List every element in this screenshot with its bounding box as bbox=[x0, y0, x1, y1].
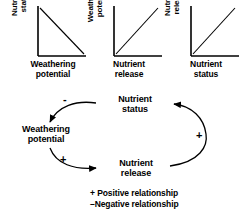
node-nutrient-release: Nutrient release bbox=[100, 158, 172, 178]
chart-3-axes-and-line bbox=[189, 6, 239, 58]
chart-1-x-axis-label-line2: potential bbox=[16, 70, 90, 80]
node-weathering-potential-line1: Weathering bbox=[6, 124, 86, 134]
sign-positive-weathering-to-release: + bbox=[60, 154, 66, 165]
chart-1-y-axis-label-line1: Nutrient bbox=[10, 0, 19, 28]
sign-negative-status-to-weathering: - bbox=[63, 94, 67, 105]
node-nutrient-status-line2: status bbox=[98, 104, 172, 114]
chart-2-x-axis-label-line2: release bbox=[92, 70, 166, 80]
node-nutrient-status-line1: Nutrient bbox=[98, 94, 172, 104]
chart-2-x-axis-label: Nutrient release bbox=[92, 60, 166, 79]
legend-item-positive: + Positive relationship bbox=[90, 188, 240, 199]
chart-2-plot-area bbox=[112, 6, 162, 58]
chart-1-x-axis-label: Weathering potential bbox=[16, 60, 90, 79]
legend-item-negative: –Negative relationship bbox=[90, 199, 240, 210]
arc-status-to-weathering bbox=[50, 102, 96, 122]
chart-1-y-axis-label: Nutrient status bbox=[10, 0, 34, 28]
arc-weathering-to-release bbox=[50, 148, 96, 168]
node-nutrient-status: Nutrient status bbox=[98, 94, 172, 114]
feedback-loop-figure: Nutrient status Weathering potential Wea… bbox=[0, 0, 248, 219]
chart-3-x-axis-label: Nutrient status bbox=[169, 60, 243, 79]
chart-3-plot-area bbox=[189, 6, 239, 58]
chart-2-y-axis-label-line1: Weathering bbox=[86, 0, 95, 28]
chart-1-trend-line bbox=[40, 8, 84, 54]
node-nutrient-release-line2: release bbox=[100, 168, 172, 178]
mini-chart-weathering-potential-vs-nutrient-release: Weathering potential Nutrient release bbox=[86, 0, 166, 88]
node-weathering-potential-line2: potential bbox=[6, 134, 86, 144]
chart-3-y-axis-label-line1: Nutrient bbox=[163, 0, 172, 28]
chart-2-trend-line bbox=[116, 8, 158, 54]
node-weathering-potential: Weathering potential bbox=[6, 124, 86, 144]
chart-2-y-axis-label: Weathering potential bbox=[86, 0, 110, 28]
node-nutrient-release-line1: Nutrient bbox=[100, 158, 172, 168]
chart-1-plot-area bbox=[36, 6, 86, 58]
mini-chart-nutrient-release-vs-nutrient-status: Nutrient release Nutrient status bbox=[163, 0, 243, 88]
sign-positive-release-to-status: + bbox=[196, 130, 202, 141]
legend: + Positive relationship –Negative relati… bbox=[90, 188, 240, 210]
chart-2-axes-and-line bbox=[112, 6, 162, 58]
chart-2-y-axis-label-line2: potential bbox=[95, 0, 104, 28]
chart-3-y-axis-label-line2: release bbox=[172, 0, 181, 28]
causal-loop-diagram: Weathering potential (upper-left arc) --… bbox=[0, 92, 248, 187]
chart-3-x-axis-label-line2: status bbox=[169, 70, 243, 80]
chart-3-y-axis-label: Nutrient release bbox=[163, 0, 187, 28]
chart-1-y-axis-label-line2: status bbox=[19, 0, 28, 28]
chart-1-axes-and-line bbox=[36, 6, 86, 58]
mini-chart-nutrient-status-vs-weathering-potential: Nutrient status Weathering potential bbox=[10, 0, 90, 88]
chart-3-trend-line bbox=[193, 8, 235, 54]
